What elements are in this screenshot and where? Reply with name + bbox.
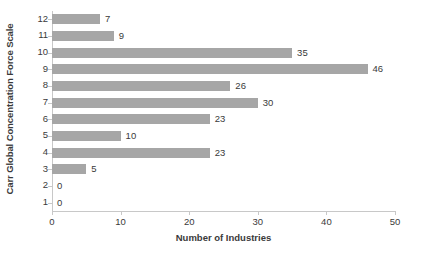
y-tick-label: 4 — [8, 146, 48, 157]
plot-area: 1020354235106237308269461035119127 — [52, 11, 395, 211]
x-axis-line — [52, 211, 395, 212]
x-tick-mark — [326, 211, 327, 215]
bar-row: 730 — [52, 94, 395, 111]
bar-value-label: 23 — [215, 147, 226, 158]
y-tick-label: 5 — [8, 129, 48, 140]
bar-value-label: 7 — [105, 13, 110, 24]
bar — [52, 48, 292, 58]
y-tick-mark — [48, 186, 52, 187]
bar-value-label: 26 — [235, 80, 246, 91]
bar-value-label: 23 — [215, 113, 226, 124]
bar — [52, 164, 86, 174]
bar-row: 10 — [52, 194, 395, 211]
bar — [52, 131, 121, 141]
y-tick-label: 11 — [8, 29, 48, 40]
bar-value-label: 0 — [57, 197, 62, 208]
bar-row: 946 — [52, 61, 395, 78]
bar-row: 423 — [52, 144, 395, 161]
y-tick-label: 3 — [8, 163, 48, 174]
x-tick-label: 10 — [106, 216, 136, 227]
bar — [52, 31, 114, 41]
bar — [52, 98, 258, 108]
y-tick-label: 12 — [8, 13, 48, 24]
x-tick-label: 40 — [311, 216, 341, 227]
y-tick-label: 8 — [8, 79, 48, 90]
y-tick-label: 1 — [8, 196, 48, 207]
bar-row: 119 — [52, 28, 395, 45]
bar-value-label: 5 — [91, 163, 96, 174]
bar-value-label: 46 — [373, 63, 384, 74]
x-tick-label: 20 — [174, 216, 204, 227]
bar-row: 127 — [52, 11, 395, 28]
bar-row: 1035 — [52, 44, 395, 61]
bar-value-label: 0 — [57, 180, 62, 191]
bar-value-label: 35 — [297, 47, 308, 58]
y-tick-label: 7 — [8, 96, 48, 107]
y-tick-label: 6 — [8, 113, 48, 124]
bar — [52, 64, 368, 74]
bar-chart: Carr Global Concentration Force Scale 10… — [0, 0, 424, 256]
x-tick-mark — [189, 211, 190, 215]
x-tick-mark — [121, 211, 122, 215]
bar — [52, 114, 210, 124]
bar-row: 623 — [52, 111, 395, 128]
x-tick-mark — [52, 211, 53, 215]
y-tick-mark — [48, 203, 52, 204]
x-tick-label: 0 — [37, 216, 67, 227]
bar-value-label: 10 — [126, 130, 137, 141]
bar-value-label: 30 — [263, 97, 274, 108]
bar — [52, 81, 230, 91]
y-tick-label: 10 — [8, 46, 48, 57]
x-axis-title: Number of Industries — [52, 232, 395, 243]
bar — [52, 14, 100, 24]
bar-row: 35 — [52, 161, 395, 178]
y-tick-label: 9 — [8, 63, 48, 74]
bar-row: 826 — [52, 78, 395, 95]
x-tick-label: 30 — [243, 216, 273, 227]
y-tick-label: 2 — [8, 179, 48, 190]
bar-value-label: 9 — [119, 30, 124, 41]
bar-row: 20 — [52, 178, 395, 195]
x-tick-mark — [395, 211, 396, 215]
x-tick-mark — [258, 211, 259, 215]
bar-row: 510 — [52, 128, 395, 145]
x-tick-label: 50 — [380, 216, 410, 227]
bar — [52, 148, 210, 158]
